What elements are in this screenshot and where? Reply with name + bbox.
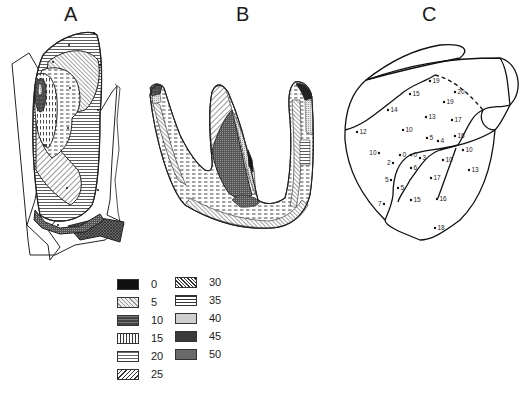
legend-label: 5 xyxy=(151,296,157,308)
sample-point-marker xyxy=(392,162,394,164)
legend-swatch-10 xyxy=(117,315,139,326)
sample-point-marker xyxy=(429,80,431,82)
sample-point-label: 20 xyxy=(458,88,466,95)
sample-point-marker xyxy=(425,116,427,118)
legend-label: 0 xyxy=(151,278,157,290)
sample-point-label: 13 xyxy=(472,166,480,173)
legend-label: 25 xyxy=(151,368,163,380)
legend-item: 25 xyxy=(117,367,163,381)
legend-item: 35 xyxy=(175,293,221,307)
legend-swatch-35 xyxy=(175,295,197,306)
legend-item: 5 xyxy=(117,295,157,309)
sample-point-label: 18 xyxy=(438,224,446,231)
sample-point-label: 17 xyxy=(434,174,442,181)
legend-label: 10 xyxy=(151,314,163,326)
panel-b-diagram xyxy=(150,82,313,229)
sample-point-label: 4 xyxy=(441,137,445,144)
sample-point-label: 7 xyxy=(378,200,382,207)
sample-point-marker xyxy=(409,93,411,95)
legend-swatch-0 xyxy=(117,279,139,290)
legend-swatch-5 xyxy=(117,297,139,308)
sample-point-label: 5 xyxy=(401,184,405,191)
sample-point-label: 10 xyxy=(406,126,414,133)
legend-swatch-20 xyxy=(117,351,139,362)
sample-point-label: 15 xyxy=(413,90,421,97)
sample-point-label: 19 xyxy=(447,98,455,105)
legend-swatch-30 xyxy=(175,277,197,288)
sample-point-marker xyxy=(430,177,432,179)
sample-point-label: 0 xyxy=(414,151,418,158)
sample-point-marker xyxy=(356,131,358,133)
legend-item: 20 xyxy=(117,349,163,363)
sample-point-label: 15 xyxy=(414,196,422,203)
legend-swatch-25 xyxy=(117,369,139,380)
sample-point-label: 5 xyxy=(385,176,389,183)
sample-point-marker xyxy=(468,169,470,171)
legend-label: 35 xyxy=(209,294,221,306)
legend-item: 15 xyxy=(117,331,163,345)
sample-point-marker xyxy=(426,137,428,139)
sample-point-label: 14 xyxy=(391,106,399,113)
sample-point-label: 10 xyxy=(446,156,454,163)
sample-point-label: 6 xyxy=(414,164,418,171)
sample-point-marker xyxy=(436,198,438,200)
panel-a-diagram xyxy=(12,32,124,260)
sample-point-label: 16 xyxy=(458,132,466,139)
sample-point-marker xyxy=(383,203,385,205)
sample-point-label: 10 xyxy=(369,149,377,156)
sample-point-marker xyxy=(443,101,445,103)
legend-swatch-50 xyxy=(175,349,197,360)
sample-point-label: 16 xyxy=(440,195,448,202)
sample-point-marker xyxy=(442,159,444,161)
sample-point-marker xyxy=(462,149,464,151)
sample-point-marker xyxy=(387,109,389,111)
legend-swatch-15 xyxy=(117,333,139,344)
legend-item: 45 xyxy=(175,329,221,343)
sample-point-marker xyxy=(410,199,412,201)
sample-point-marker xyxy=(397,187,399,189)
legend-label: 30 xyxy=(209,276,221,288)
legend-label: 15 xyxy=(151,332,163,344)
sample-point-label: 3 xyxy=(423,154,427,161)
sample-point-marker xyxy=(410,167,412,169)
sample-point-label: 13 xyxy=(429,113,437,120)
legend-label: 40 xyxy=(209,312,221,324)
sample-point-marker xyxy=(410,154,412,156)
legend-swatch-45 xyxy=(175,331,197,342)
legend-label: 45 xyxy=(209,330,221,342)
sample-point-marker xyxy=(454,91,456,93)
legend-label: 20 xyxy=(151,350,163,362)
sample-point-label: 0 xyxy=(403,151,407,158)
legend-item: 10 xyxy=(117,313,163,327)
sample-point-marker xyxy=(378,152,380,154)
sample-point-label: 19 xyxy=(433,77,441,84)
legend-item: 50 xyxy=(175,347,221,361)
sample-point-marker xyxy=(454,135,456,137)
sample-point-marker xyxy=(434,227,436,229)
sample-point-marker xyxy=(437,140,439,142)
sample-point-marker xyxy=(399,154,401,156)
sample-point-label: 17 xyxy=(455,116,463,123)
sample-point-label: 12 xyxy=(360,128,368,135)
sample-point-label: 2 xyxy=(387,159,391,166)
sample-point-label: 10 xyxy=(466,146,474,153)
sample-point-marker xyxy=(390,179,392,181)
sample-point-marker xyxy=(419,157,421,159)
legend-item: 0 xyxy=(117,277,157,291)
sample-point-marker xyxy=(451,119,453,121)
legend-swatch-40 xyxy=(175,313,197,324)
legend-item: 30 xyxy=(175,275,221,289)
legend-item: 40 xyxy=(175,311,221,325)
sample-point-marker xyxy=(402,129,404,131)
panel-c-diagram xyxy=(345,45,518,240)
sample-point-label: 5 xyxy=(430,134,434,141)
legend-label: 50 xyxy=(209,348,221,360)
figure-canvas: 1915201914131712105416100032610101355177… xyxy=(0,0,528,395)
